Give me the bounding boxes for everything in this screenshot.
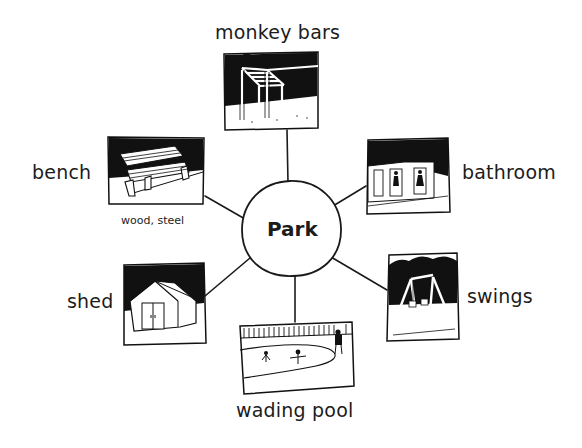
wading-pool-icon <box>236 320 356 396</box>
monkey-bars-icon <box>222 50 320 132</box>
node-label-bathroom: bathroom <box>462 161 556 183</box>
connector-shed <box>205 258 250 296</box>
connector-swings <box>331 257 387 290</box>
node-sublabel-bench: wood, steel <box>121 214 184 227</box>
center-label: Park <box>267 217 318 241</box>
node-label-swings: swings <box>467 285 533 307</box>
connector-bathroom <box>333 186 366 206</box>
connector-bench <box>205 196 245 219</box>
swings-icon <box>383 251 461 343</box>
node-label-wading-pool: wading pool <box>236 399 353 421</box>
bathroom-icon <box>364 136 452 216</box>
node-label-bench: bench <box>32 161 91 183</box>
connector-monkey-bars <box>287 130 288 183</box>
node-label-monkey-bars: monkey bars <box>215 21 340 43</box>
node-label-shed: shed <box>67 290 114 312</box>
park-mind-map: Park monkey bars bench wood, steel <box>0 0 582 448</box>
bench-icon <box>105 134 207 208</box>
shed-icon <box>120 261 208 347</box>
